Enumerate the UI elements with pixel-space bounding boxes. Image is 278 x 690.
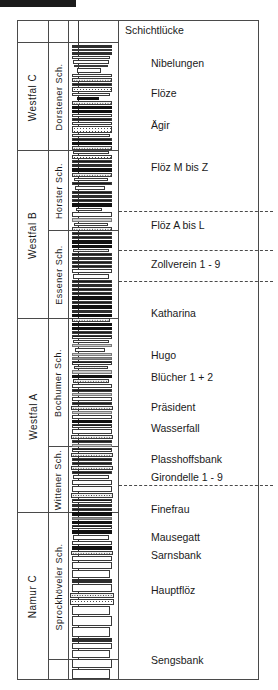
lithology-bed bbox=[72, 195, 112, 198]
member-label-sprockhoeveler: Sprockhöveler Sch. bbox=[54, 543, 64, 630]
lithology-bed bbox=[72, 52, 112, 55]
lithology-bed bbox=[73, 535, 109, 540]
lithology-bed bbox=[72, 650, 110, 658]
lithology-bed bbox=[72, 45, 112, 48]
lithology-bed bbox=[72, 191, 112, 194]
correlation-line-4 bbox=[119, 485, 273, 486]
lithology-bed bbox=[72, 87, 112, 92]
lithology-bed bbox=[72, 245, 112, 248]
lithology-bed bbox=[73, 249, 109, 252]
lithology-bed bbox=[72, 643, 112, 649]
seam-label-aegir: Ägir bbox=[151, 119, 170, 131]
lithology-bed bbox=[72, 546, 112, 550]
lithology-bed bbox=[72, 269, 112, 273]
lithology-bed bbox=[72, 101, 112, 105]
lithology-bed bbox=[72, 236, 112, 239]
lithology-bed bbox=[72, 146, 112, 150]
lithology-bed bbox=[72, 284, 112, 287]
lithology-bed bbox=[72, 627, 110, 637]
lithology-bed bbox=[73, 151, 109, 154]
seam-label-floeze: Flöze bbox=[151, 87, 177, 99]
lithology-bed bbox=[72, 83, 112, 86]
lithology-bed bbox=[72, 440, 112, 443]
lithology-bed bbox=[72, 448, 112, 452]
lithology-bed bbox=[72, 530, 112, 534]
stage-cell-westfal-a: Westfal A bbox=[18, 319, 48, 513]
lithology-bed bbox=[72, 265, 112, 268]
lithology-bed bbox=[72, 301, 112, 304]
lithology-log-column bbox=[69, 21, 118, 679]
seam-label-wasserfall: Wasserfall bbox=[151, 422, 200, 434]
lithology-bed bbox=[71, 493, 113, 498]
lithology-bed bbox=[72, 562, 112, 569]
seam-label-praesident: Präsident bbox=[151, 401, 195, 413]
lithology-bed bbox=[74, 223, 108, 226]
member-label-dorstener: Dorstener Sch. bbox=[54, 63, 64, 130]
lithology-bed bbox=[72, 74, 112, 77]
lithology-bed bbox=[72, 280, 112, 283]
lithology-bed bbox=[72, 517, 112, 520]
member-cell-sprockhoeveler: Sprockhöveler Sch. bbox=[49, 513, 68, 660]
lithology-bed bbox=[73, 60, 109, 64]
correlation-line-1 bbox=[119, 211, 273, 212]
lithology-bed bbox=[72, 429, 112, 434]
lithology-bed bbox=[72, 203, 112, 207]
lithology-bed bbox=[72, 218, 112, 222]
lithology-bed bbox=[72, 173, 112, 177]
lithology-bed bbox=[72, 353, 112, 356]
lithology-bed bbox=[72, 579, 112, 583]
seam-label-plasshoffsbank: Plasshoffsbank bbox=[151, 453, 222, 465]
seam-label-zollverein: Zollverein 1 - 9 bbox=[151, 258, 220, 270]
lithology-bed bbox=[77, 68, 101, 73]
lithology-bed bbox=[72, 331, 112, 334]
lithology-bed bbox=[72, 480, 112, 485]
member-cell-dorstener: Dorstener Sch. bbox=[49, 43, 68, 151]
lithology-bed bbox=[72, 78, 112, 82]
lithology-bed bbox=[70, 599, 114, 605]
lithology-bed bbox=[72, 305, 112, 309]
lithology-bed bbox=[72, 370, 112, 374]
lithology-bed bbox=[72, 556, 112, 561]
lithology-bed bbox=[72, 257, 112, 260]
lithology-bed bbox=[72, 56, 110, 59]
member-cell-bochumer: Bochumer Sch. bbox=[49, 319, 68, 447]
seam-label-bluecher: Blücher 1 + 2 bbox=[151, 371, 213, 383]
lithology-bed bbox=[72, 199, 112, 202]
lithology-bed bbox=[72, 212, 112, 217]
stratigraphic-chart-frame: Westfal C Westfal B Westfal A Namur C Do… bbox=[17, 20, 259, 680]
member-cell-horster: Horster Sch. bbox=[49, 151, 68, 231]
lithology-bed bbox=[72, 335, 112, 339]
lithology-bed bbox=[72, 659, 112, 668]
lithology-bed bbox=[72, 240, 112, 244]
member-label-horster: Horster Sch. bbox=[54, 163, 64, 219]
lithology-bed bbox=[72, 486, 112, 492]
lithology-bed bbox=[72, 310, 112, 313]
lithology-bed bbox=[72, 232, 112, 235]
top-black-bar bbox=[0, 0, 76, 7]
lithology-bed bbox=[72, 393, 112, 396]
member-label-bochumer: Bochumer Sch. bbox=[54, 349, 64, 417]
lithology-bed bbox=[72, 508, 112, 511]
seam-label-katharina: Katharina bbox=[151, 307, 196, 319]
lithology-bed bbox=[72, 318, 110, 322]
lithology-bed bbox=[71, 453, 113, 457]
lithology-bed bbox=[72, 384, 112, 388]
lithology-bed bbox=[72, 122, 112, 125]
lithology-bed bbox=[77, 97, 99, 100]
lithology-bed bbox=[72, 160, 112, 163]
lithology-bed bbox=[72, 669, 110, 679]
lithology-bed bbox=[72, 616, 112, 626]
seam-label-nibelungen: Nibelungen bbox=[151, 57, 204, 69]
lithology-bed bbox=[72, 93, 110, 96]
lithology-bed bbox=[74, 65, 108, 67]
lithology-bed bbox=[72, 397, 112, 401]
lithology-bed bbox=[72, 638, 112, 642]
lithology-bed bbox=[72, 525, 112, 529]
lithology-bed bbox=[72, 411, 112, 414]
lithology-bed bbox=[72, 504, 112, 507]
lithology-bed bbox=[71, 466, 113, 470]
lithology-bed bbox=[72, 110, 112, 113]
lithology-bed bbox=[73, 274, 109, 279]
lithology-bed bbox=[72, 361, 112, 365]
seam-label-sengsbank: Sengsbank bbox=[151, 654, 204, 666]
